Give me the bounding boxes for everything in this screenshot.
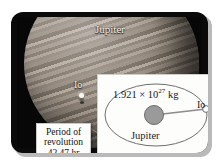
orbit-diagram-inset: 1.921 × 1027 kg Jupiter Io [97,74,208,153]
jupiter-mass-unit: kg [165,89,178,100]
callout-line-3: 42.47 hr [48,148,80,153]
inset-io-label: Io [197,99,205,110]
photo-io-label: Io [74,79,82,90]
period-of-revolution-callout: Period of revolution 42.47 hr [36,123,91,153]
callout-line-1: Period of [46,127,81,137]
io-shadow-dot [80,101,84,104]
inset-jupiter-label: Jupiter [131,130,160,141]
callout-line-2: revolution [44,137,83,147]
jupiter-inset-circle [145,106,164,125]
jupiter-mass-mantissa: 1.921 × 10 [113,89,158,100]
jupiter-io-figure: Jupiter Io 1.921 × 1027 kg Jupiter Io Pe… [0,0,216,165]
jupiter-mass-label: 1.921 × 1027 kg [113,87,178,100]
photo-frame-bezel: Jupiter Io 1.921 × 1027 kg Jupiter Io Pe… [11,12,208,153]
io-moon-dot [79,93,84,98]
photo-jupiter-label: Jupiter [95,23,125,35]
